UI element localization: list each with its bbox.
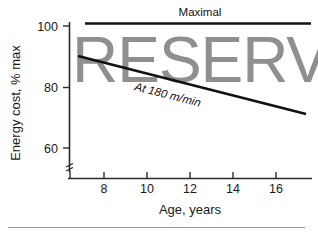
x-axis-title: Age, years: [159, 202, 222, 217]
x-tick-label-16: 16: [269, 182, 283, 196]
y-axis-title: Energy cost, % max: [8, 45, 23, 161]
x-tick-label-10: 10: [140, 182, 154, 196]
y-tick-label-100: 100: [37, 20, 58, 34]
energy-cost-vs-age-chart: RESERVE 100 80 60 8 10 12 14 16 Max: [0, 0, 318, 234]
x-tick-label-12: 12: [183, 182, 197, 196]
y-tick-label-60: 60: [44, 142, 58, 156]
maximal-annotation-label: Maximal: [179, 6, 222, 18]
x-tick-label-14: 14: [226, 182, 240, 196]
y-tick-label-80: 80: [44, 81, 58, 95]
figure-container: RESERVE 100 80 60 8 10 12 14 16 Max: [0, 0, 318, 234]
x-tick-label-8: 8: [101, 182, 108, 196]
